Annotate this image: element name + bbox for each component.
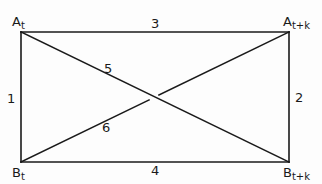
corner-subscript: t — [21, 20, 25, 31]
corner-subscript: t — [21, 171, 25, 182]
corner-base: A — [12, 14, 21, 29]
corner-base: B — [283, 165, 292, 180]
corner-label-bottom-right: Bt+k — [283, 166, 310, 182]
corner-base: B — [12, 165, 21, 180]
edge-label-diagonal-6: 6 — [102, 121, 110, 134]
edge-label-bottom: 4 — [151, 164, 159, 177]
diagram-lines — [0, 0, 322, 184]
diagonal-6-line-upper — [159, 32, 289, 95]
corner-subscript: t+k — [292, 20, 310, 31]
corner-label-bottom-left: Bt — [12, 166, 25, 182]
diagram-canvas: At At+k Bt Bt+k 1 2 3 4 5 6 — [0, 0, 322, 184]
diagonal-6-line-lower — [21, 100, 149, 162]
corner-subscript: t+k — [292, 171, 310, 182]
corner-base: A — [283, 14, 292, 29]
edge-label-left: 1 — [7, 92, 15, 105]
corner-label-top-left: At — [12, 15, 25, 31]
edge-label-right: 2 — [295, 91, 303, 104]
corner-label-top-right: At+k — [283, 15, 310, 31]
edge-label-diagonal-5: 5 — [104, 62, 112, 75]
edge-label-top: 3 — [151, 17, 159, 30]
